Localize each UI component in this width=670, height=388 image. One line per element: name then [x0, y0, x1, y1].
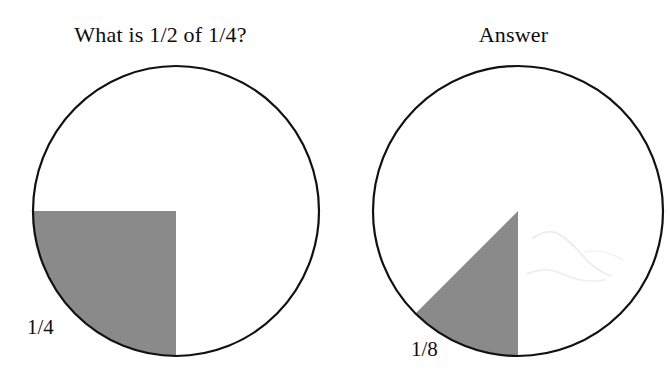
shaded-quarter-sector — [33, 211, 176, 356]
answer-panel: Answer 1/8 — [335, 0, 670, 388]
question-panel: What is 1/2 of 1/4? 1/4 — [0, 0, 335, 388]
question-fraction-label: 1/4 — [27, 317, 54, 338]
shaded-eighth-sector — [416, 211, 519, 356]
answer-fraction-label: 1/8 — [411, 339, 438, 360]
answer-circle-diagram — [335, 0, 670, 388]
fraction-worksheet-figure: What is 1/2 of 1/4? 1/4 Answer 1/8 — [0, 0, 670, 388]
